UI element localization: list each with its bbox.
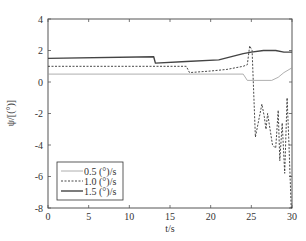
- x-tick-label: 15: [165, 211, 175, 222]
- y-tick-label: 2: [38, 45, 43, 56]
- y-tick-label: 4: [38, 14, 43, 25]
- y-tick-label: -8: [35, 203, 43, 214]
- x-tick-label: 5: [86, 211, 91, 222]
- y-axis-label: ψ/[(°)]: [5, 100, 17, 126]
- legend: 0.5 (°)/s 1.0 (°)/s 1.5 (°)/s: [57, 162, 123, 200]
- y-tick-label: 0: [38, 77, 43, 88]
- y-tick-label: -6: [35, 171, 43, 182]
- x-tick-label: 0: [46, 211, 51, 222]
- x-tick-label: 25: [246, 211, 256, 222]
- y-tick-label: -2: [35, 108, 43, 119]
- legend-label-1.5: 1.5 (°)/s: [84, 186, 116, 198]
- chart-svg: -8-6-4-2024 051015202530 t/s ψ/[(°)] 0.5…: [0, 0, 306, 241]
- x-tick-label: 30: [287, 211, 297, 222]
- x-tick-label: 20: [206, 211, 216, 222]
- x-tick-label: 10: [124, 211, 134, 222]
- y-tick-label: -4: [35, 140, 43, 151]
- x-axis-label: t/s: [165, 223, 175, 234]
